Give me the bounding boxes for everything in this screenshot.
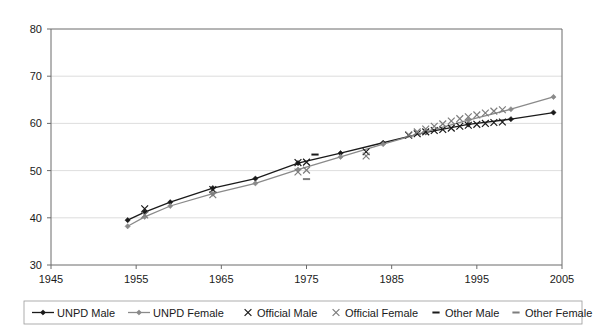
x-tick-label-1945: 1945: [39, 273, 63, 285]
axis-top-right: [51, 29, 562, 265]
x-tick-label-1975: 1975: [294, 273, 318, 285]
series-3-pt-4-x-marker: [363, 153, 370, 160]
x-tick-label-1965: 1965: [209, 273, 233, 285]
legend-label-3: Official Female: [345, 307, 418, 319]
series-0-pt-10-diamond-marker: [508, 117, 513, 122]
series-1-pt-2-diamond-marker: [168, 203, 173, 208]
legend-item-official-female[interactable]: Official Female: [333, 307, 419, 319]
chart-container: 304050607080 194519551965197519851995200…: [0, 0, 606, 333]
series-1-pt-4-diamond-marker: [253, 181, 258, 186]
series-1-pt-10-diamond-marker: [508, 107, 513, 112]
y-tick-label-70: 70: [30, 70, 42, 82]
series-line-1: [128, 97, 554, 226]
series-0-pt-0-diamond-marker: [125, 218, 130, 223]
series-1-pt-11-diamond-marker: [551, 94, 556, 99]
series-0-pt-11-diamond-marker: [551, 110, 556, 115]
legend-label-0: UNPD Male: [57, 307, 115, 319]
series-3-pt-9-x-marker: [439, 120, 446, 127]
series-unpd-female: [125, 94, 556, 229]
legend-label-4: Other Male: [445, 307, 499, 319]
life-expectancy-line-chart: 304050607080 194519551965197519851995200…: [0, 0, 606, 333]
y-tick-label-60: 60: [30, 117, 42, 129]
y-tick-label-80: 80: [30, 23, 42, 35]
grid-lines: [51, 76, 562, 218]
series-unpd-male: [125, 110, 556, 223]
legend-item-other-female[interactable]: Other Female: [512, 307, 592, 319]
x-axis-tick-labels: 1945195519651975198519952005: [39, 273, 574, 285]
series-line-0: [128, 113, 554, 221]
x-tick-label-1985: 1985: [379, 273, 403, 285]
y-tick-label-30: 30: [30, 259, 42, 271]
chart-legend: UNPD MaleUNPD FemaleOfficial MaleOfficia…: [24, 301, 592, 324]
series-3-pt-16-x-marker: [499, 106, 506, 113]
x-tick-label-1995: 1995: [465, 273, 489, 285]
x-tick-label-1955: 1955: [124, 273, 148, 285]
legend-label-2: Official Male: [257, 307, 317, 319]
series-3-pt-11-x-marker: [456, 115, 463, 122]
series-3-pt-8-x-marker: [431, 123, 438, 130]
x-tick-label-2005: 2005: [550, 273, 574, 285]
plot-axes: [47, 29, 562, 269]
series-2-pt-13-x-marker: [473, 121, 480, 128]
y-axis-tick-labels: 304050607080: [30, 23, 42, 271]
y-tick-label-40: 40: [30, 212, 42, 224]
series-2-pt-15-x-marker: [490, 119, 497, 126]
legend-label-1: UNPD Female: [153, 307, 224, 319]
legend-label-5: Other Female: [525, 307, 592, 319]
series-1-pt-0-diamond-marker: [125, 224, 130, 229]
y-tick-label-50: 50: [30, 165, 42, 177]
series-1-pt-6-diamond-marker: [338, 154, 343, 159]
data-series-group: [125, 94, 556, 229]
axis-left-bottom: [51, 29, 562, 265]
